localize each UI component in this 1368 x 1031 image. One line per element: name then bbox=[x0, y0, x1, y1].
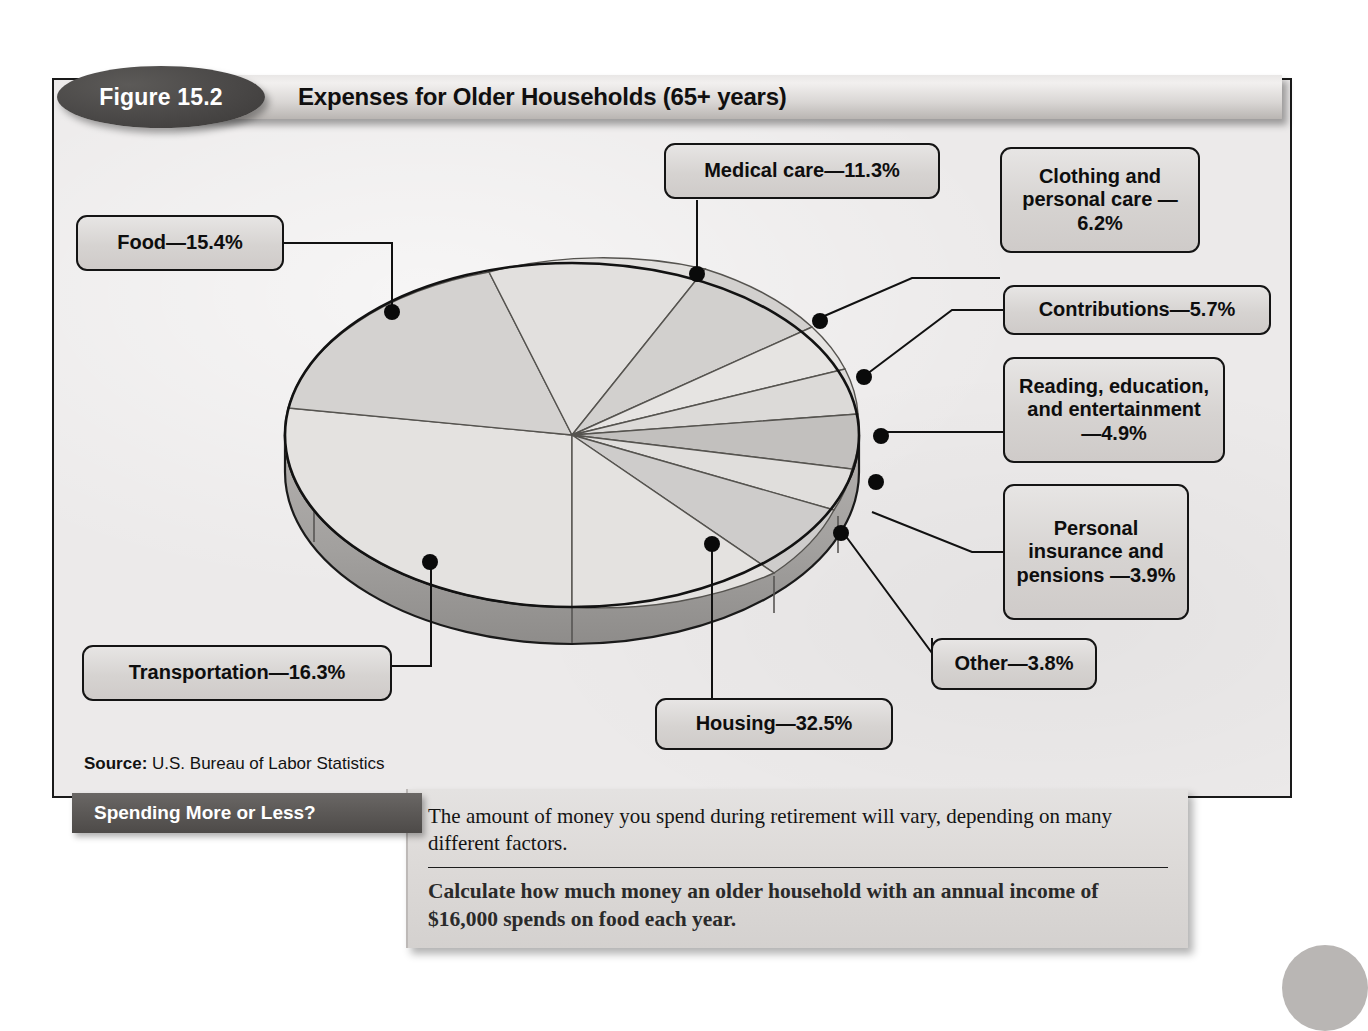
source-text: U.S. Bureau of Labor Statistics bbox=[147, 754, 384, 773]
source-label: Source: bbox=[84, 754, 147, 773]
figure-number-label: Figure 15.2 bbox=[99, 84, 223, 111]
callout-personal-insurance-label: Personal insurance and pensions —3.9% bbox=[1015, 517, 1177, 587]
callout-other: Other—3.8% bbox=[931, 638, 1097, 690]
callout-reading-label: Reading, education, and entertainment —4… bbox=[1015, 375, 1213, 445]
activity-tab: Spending More or Less? bbox=[72, 793, 422, 833]
callout-food: Food—15.4% bbox=[76, 215, 284, 271]
activity-intro-text: The amount of money you spend during ret… bbox=[428, 803, 1168, 857]
callout-housing-label: Housing—32.5% bbox=[696, 712, 853, 735]
callout-transportation: Transportation—16.3% bbox=[82, 645, 392, 701]
callout-personal-insurance: Personal insurance and pensions —3.9% bbox=[1003, 484, 1189, 620]
callout-clothing: Clothing and personal care —6.2% bbox=[1000, 147, 1200, 253]
figure-title-bar: Expenses for Older Households (65+ years… bbox=[170, 75, 1282, 119]
activity-question-text: Calculate how much money an older househ… bbox=[428, 877, 1168, 934]
callout-other-label: Other—3.8% bbox=[955, 652, 1074, 675]
figure-number-badge: Figure 15.2 bbox=[57, 66, 265, 128]
callout-food-label: Food—15.4% bbox=[117, 231, 243, 254]
callout-clothing-label: Clothing and personal care —6.2% bbox=[1012, 165, 1188, 235]
activity-tab-label: Spending More or Less? bbox=[94, 802, 316, 824]
corner-decoration-dot bbox=[1282, 945, 1368, 1031]
callout-housing: Housing—32.5% bbox=[655, 698, 893, 750]
callout-medical-care-label: Medical care—11.3% bbox=[704, 159, 900, 182]
callout-transportation-label: Transportation—16.3% bbox=[129, 661, 346, 684]
activity-body: The amount of money you spend during ret… bbox=[406, 789, 1188, 948]
callout-medical-care: Medical care—11.3% bbox=[664, 143, 940, 199]
callout-reading: Reading, education, and entertainment —4… bbox=[1003, 357, 1225, 463]
callout-contributions: Contributions—5.7% bbox=[1003, 285, 1271, 335]
activity-divider bbox=[428, 867, 1168, 868]
page-title: Expenses for Older Households (65+ years… bbox=[298, 83, 787, 111]
source-line: Source: U.S. Bureau of Labor Statistics bbox=[84, 754, 384, 774]
callout-contributions-label: Contributions—5.7% bbox=[1039, 298, 1236, 321]
